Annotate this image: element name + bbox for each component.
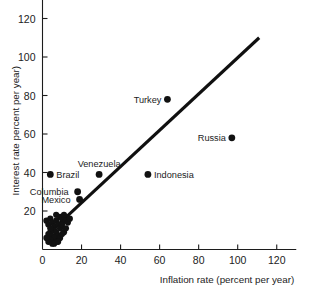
data-point-turkey — [164, 96, 171, 103]
point-label-venezuela: Venezuela — [78, 159, 122, 169]
data-point-venezuela — [96, 171, 103, 178]
x-tick-label: 80 — [193, 254, 205, 266]
x-tick-label: 60 — [154, 254, 166, 266]
data-point-columbia — [74, 188, 81, 195]
y-tick-label: 60 — [24, 128, 36, 140]
data-point-russia — [228, 134, 235, 141]
y-tick-label: 100 — [18, 51, 36, 63]
data-point — [67, 216, 73, 222]
y-axis-title: Interest rate percent per year) — [10, 66, 21, 196]
x-tick-label: 0 — [40, 254, 46, 266]
scatter-chart: 20406080100120020406080100120 TurkeyRuss… — [0, 0, 321, 289]
data-point — [59, 231, 65, 237]
data-point-brazil — [47, 171, 54, 178]
y-tick-label: 120 — [18, 13, 36, 25]
data-point — [53, 212, 59, 218]
x-tick-label: 20 — [76, 254, 88, 266]
data-point — [61, 212, 67, 218]
trend-line — [56, 38, 259, 227]
chart-canvas: 20406080100120020406080100120 TurkeyRuss… — [0, 0, 321, 289]
point-label-brazil: Brazil — [56, 170, 79, 180]
point-label-mexico: Mexico — [41, 195, 70, 205]
y-tick-label: 80 — [24, 90, 36, 102]
data-point-indonesia — [145, 171, 152, 178]
data-point — [55, 239, 61, 245]
point-label-indonesia: Indonesia — [154, 170, 195, 180]
data-point — [47, 225, 53, 231]
x-axis-title: Inflation rate (percent per year) — [160, 274, 295, 285]
data-point — [43, 235, 49, 241]
point-label-russia: Russia — [198, 133, 227, 143]
data-point-mexico — [76, 196, 83, 203]
data-point — [63, 225, 69, 231]
x-tick-label: 120 — [268, 254, 286, 266]
y-tick-label: 20 — [24, 205, 36, 217]
point-label-turkey: Turkey — [134, 95, 162, 105]
x-tick-label: 40 — [115, 254, 127, 266]
y-tick-label: 40 — [24, 167, 36, 179]
x-tick-label: 100 — [229, 254, 247, 266]
